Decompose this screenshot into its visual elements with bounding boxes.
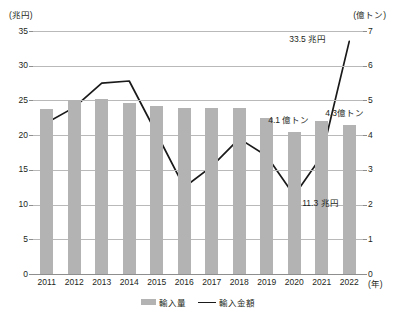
left-tick-label: 20 [19, 131, 28, 140]
line-series-import-value [33, 31, 363, 274]
right-tick-mark [363, 274, 367, 275]
bar-2011 [40, 109, 53, 274]
legend-item-輸入量: 輸入量 [141, 296, 186, 308]
annotation-輸入金額-2020: 11.3 兆円 [302, 199, 338, 208]
bar-2017 [205, 108, 218, 274]
gridline [33, 135, 363, 136]
bar-2016 [178, 108, 191, 274]
left-axis-unit-label: (兆円) [9, 8, 33, 20]
chart-legend: 輸入量輸入金額 [0, 296, 395, 308]
left-tick-mark [29, 239, 33, 240]
x-tick-label-2015: 2015 [143, 277, 171, 287]
bar-2020 [288, 132, 301, 274]
bar-2022 [343, 125, 356, 274]
right-tick-label: 7 [368, 27, 373, 36]
right-axis-unit-label: (億トン) [353, 8, 386, 20]
x-axis-labels: 2011201220132014201520162017201820192020… [33, 277, 363, 291]
bar-2013 [95, 99, 108, 274]
annotation-輸入金額-2022: 33.5 兆円 [289, 35, 326, 44]
right-tick-mark [363, 66, 367, 67]
left-tick-label: 0 [23, 270, 28, 279]
left-tick-mark [29, 170, 33, 171]
right-tick-mark [363, 135, 367, 136]
x-tick-label-2012: 2012 [61, 277, 89, 287]
left-tick-label: 5 [23, 235, 28, 244]
left-tick-mark [29, 100, 33, 101]
right-tick-mark [363, 205, 367, 206]
right-tick-label: 1 [368, 235, 373, 244]
right-tick-mark [363, 100, 367, 101]
bar-2018 [233, 108, 246, 274]
x-tick-label-2019: 2019 [253, 277, 281, 287]
left-tick-mark [29, 205, 33, 206]
right-tick-label: 5 [368, 96, 373, 105]
right-tick-label: 3 [368, 165, 373, 174]
bar-2019 [260, 118, 273, 274]
x-tick-label-2017: 2017 [198, 277, 226, 287]
x-tick-label-2021: 2021 [308, 277, 336, 287]
right-tick-label: 6 [368, 61, 373, 70]
x-tick-label-2013: 2013 [88, 277, 116, 287]
left-tick-mark [29, 66, 33, 67]
right-tick-mark [363, 31, 367, 32]
x-axis-unit-label: (年) [368, 277, 383, 289]
gridline [33, 31, 363, 32]
bar-2014 [123, 103, 136, 274]
gridline [33, 100, 363, 101]
left-tick-mark [29, 135, 33, 136]
gridline [33, 170, 363, 171]
annotation-輸入量-2022: 4.3億トン [325, 109, 364, 118]
bar-2015 [150, 106, 163, 274]
x-tick-label-2014: 2014 [116, 277, 144, 287]
x-tick-label-2016: 2016 [171, 277, 199, 287]
plot-area: 05101520253035 01234567 33.5 兆円4.1 億トン4.… [33, 31, 363, 274]
legend-label: 輸入量 [159, 296, 186, 308]
left-tick-mark [29, 274, 33, 275]
x-tick-label-2018: 2018 [226, 277, 254, 287]
left-tick-mark [29, 31, 33, 32]
left-tick-label: 10 [19, 200, 28, 209]
gridline [33, 239, 363, 240]
right-tick-label: 4 [368, 131, 373, 140]
x-tick-label-2020: 2020 [281, 277, 309, 287]
right-tick-mark [363, 239, 367, 240]
legend-label: 輸入金額 [219, 296, 255, 308]
annotation-輸入量-2020: 4.1 億トン [268, 116, 309, 125]
x-tick-label-2022: 2022 [336, 277, 364, 287]
legend-line-swatch-icon [198, 302, 216, 303]
import-volume-value-chart: (兆円) (億トン) 05101520253035 01234567 33.5 … [0, 0, 395, 314]
right-tick-label: 2 [368, 200, 373, 209]
left-tick-label: 30 [19, 61, 28, 70]
gridline [33, 66, 363, 67]
right-tick-mark [363, 170, 367, 171]
gridline [33, 274, 363, 275]
left-tick-label: 25 [19, 96, 28, 105]
legend-item-輸入金額: 輸入金額 [198, 296, 255, 308]
left-tick-label: 35 [19, 27, 28, 36]
bar-2012 [68, 100, 81, 274]
x-tick-label-2011: 2011 [33, 277, 61, 287]
legend-bar-swatch-icon [141, 299, 156, 305]
left-tick-label: 15 [19, 165, 28, 174]
